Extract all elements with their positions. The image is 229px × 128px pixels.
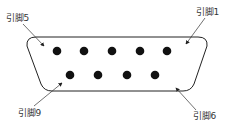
- pin-5: [53, 47, 62, 56]
- pin-3: [108, 47, 117, 56]
- pin-8: [94, 71, 103, 80]
- label-pin5: 引脚5: [6, 13, 29, 23]
- label-pin1: 引脚1: [196, 7, 219, 17]
- db9-connector-diagram: 引脚5 引脚1 引脚9 引脚6: [0, 0, 229, 128]
- arrow-pin6: [176, 88, 196, 110]
- pin-2: [136, 47, 145, 56]
- connector-outline: [27, 37, 207, 91]
- label-pin9: 引脚9: [18, 108, 41, 118]
- label-pin6: 引脚6: [193, 111, 216, 121]
- arrow-pin1: [186, 18, 205, 44]
- top-row-pins: [53, 47, 172, 56]
- pin-4: [80, 47, 89, 56]
- bottom-row-pins: [66, 71, 160, 80]
- pin-6: [151, 71, 160, 80]
- pin-1: [163, 47, 172, 56]
- arrow-pin9: [34, 83, 62, 106]
- arrow-pin5: [23, 24, 44, 46]
- pin-9: [66, 71, 75, 80]
- pin-7: [123, 71, 132, 80]
